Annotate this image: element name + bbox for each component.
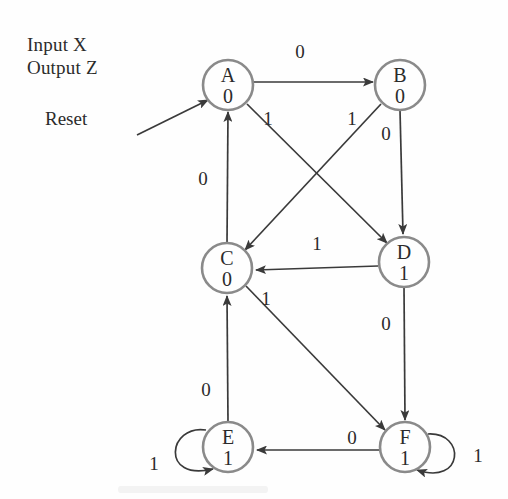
edge-label-D-to-C: 1 xyxy=(312,233,322,254)
edge-label-A-to-B: 0 xyxy=(295,41,305,62)
state-F-output: 1 xyxy=(400,447,410,469)
edge-label-B-to-C: 1 xyxy=(347,108,357,129)
state-B-output: 0 xyxy=(395,85,405,107)
state-node-A[interactable]: A 0 xyxy=(203,60,253,110)
state-nodes: A 0 B 0 C 0 D 1 E 1 xyxy=(202,60,430,472)
edge-label-D-to-F: 0 xyxy=(381,313,391,334)
state-E-name: E xyxy=(222,426,234,448)
state-node-F[interactable]: F 1 xyxy=(380,422,430,472)
edge-label-B-to-D: 0 xyxy=(381,123,391,144)
edge-label-E-self-loop: 1 xyxy=(149,453,159,474)
state-F-name: F xyxy=(399,426,410,448)
edge-label-A-to-D: 1 xyxy=(263,108,273,129)
edge-label-C-to-A: 0 xyxy=(198,168,208,189)
edge-D-to-F xyxy=(404,287,405,420)
state-A-name: A xyxy=(221,64,236,86)
edge-label-E-to-C: 0 xyxy=(201,379,211,400)
edge-D-to-C xyxy=(256,266,378,270)
edge-E-to-C xyxy=(227,296,228,422)
state-diagram-canvas: A 0 B 0 C 0 D 1 E 1 xyxy=(0,0,508,499)
edge-label-F-self-loop: 1 xyxy=(473,445,483,466)
state-diagram-figure: Input X Output Z Reset xyxy=(0,0,508,499)
state-D-output: 1 xyxy=(399,262,409,284)
edge-labels: 0 1 1 0 0 1 1 0 0 1 0 1 xyxy=(149,41,483,474)
state-A-output: 0 xyxy=(223,85,233,107)
state-C-name: C xyxy=(220,247,233,269)
state-node-E[interactable]: E 1 xyxy=(203,422,253,472)
edge-B-to-D xyxy=(400,110,403,234)
edge-C-to-A xyxy=(227,112,228,243)
edge-reset-to-A xyxy=(137,100,208,135)
edge-label-F-to-E: 0 xyxy=(347,427,357,448)
state-D-name: D xyxy=(397,241,411,263)
state-node-B[interactable]: B 0 xyxy=(375,60,425,110)
state-B-name: B xyxy=(393,64,406,86)
state-node-C[interactable]: C 0 xyxy=(202,243,252,293)
edge-label-C-to-F: 1 xyxy=(261,288,271,309)
state-node-D[interactable]: D 1 xyxy=(379,237,429,287)
state-C-output: 0 xyxy=(222,268,232,290)
state-E-output: 1 xyxy=(223,447,233,469)
